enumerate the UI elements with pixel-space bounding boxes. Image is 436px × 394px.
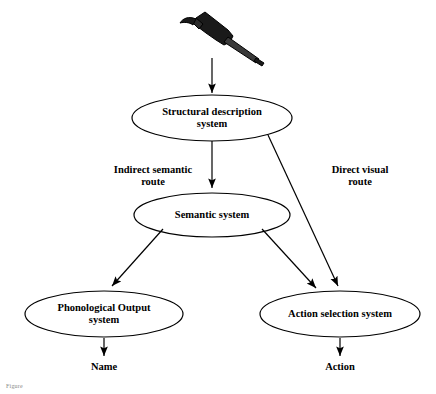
terminal-label-action: Action [300,361,380,373]
edge-label-direct-visual-route: Direct visual route [315,164,405,188]
figure-diagram: Structural description system Semantic s… [0,0,436,394]
terminal-label-name: Name [64,361,144,373]
node-semantic-system [134,193,290,237]
node-action-selection-system [260,291,420,337]
edge-semantic-to-phonological [112,229,163,286]
node-structural-description-system [132,95,292,141]
figure-caption: Figure [6,383,23,389]
node-phonological-output-system [25,291,183,337]
hammer-icon [180,12,264,66]
edge-label-indirect-semantic-route: Indirect semantic route [98,164,208,188]
diagram-canvas [0,0,436,394]
edge-semantic-to-action-selection [262,229,316,288]
